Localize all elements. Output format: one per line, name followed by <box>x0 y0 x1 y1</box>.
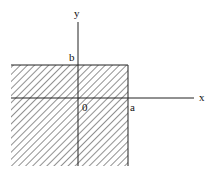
b-label: b <box>69 52 75 63</box>
region-diagram <box>0 0 216 177</box>
x-axis-label: x <box>199 92 205 103</box>
a-label: a <box>130 102 135 113</box>
hatched-region <box>11 65 128 166</box>
y-axis-label: y <box>74 8 80 19</box>
origin-label: 0 <box>82 102 88 113</box>
